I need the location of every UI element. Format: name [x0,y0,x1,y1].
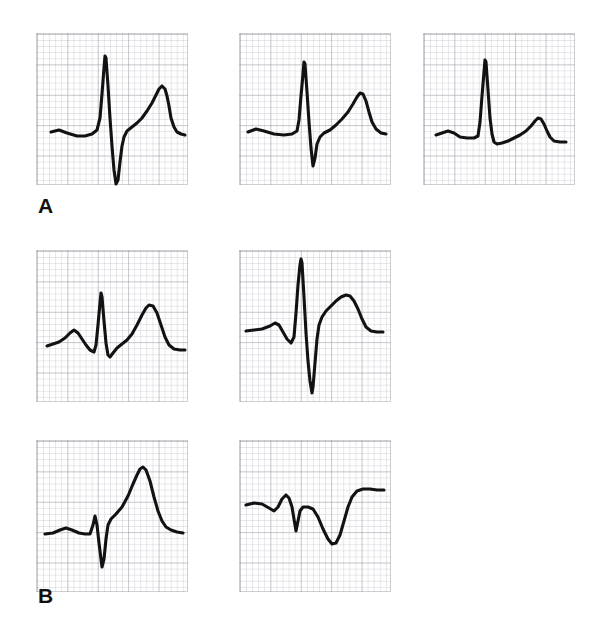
ecg-waveform-svg: Tall R wave with deep S wave, slightly r… [240,34,392,186]
ecg-trace-b4: Low amplitude QRS with small r and s wav… [246,489,384,544]
ecg-trace-a2: Tall R wave with deep S wave, slightly r… [248,62,386,166]
ecg-figure: Tall R wave with deep S wave and elevate… [0,0,605,624]
ecg-waveform-svg: Distinct P wave, narrow QRS with small S… [37,251,189,403]
ecg-panel-b2: Very tall R wave with a deep S wave exte… [239,250,391,402]
ecg-trace-a3: Tall narrow R wave on a flat baseline wi… [436,60,566,144]
ecg-waveform-svg: Tall R wave with deep S wave and elevate… [37,34,189,186]
ecg-trace-b3: Small r wave, deep narrow S wave, then a… [45,467,183,567]
ecg-panel-a1: Tall R wave with deep S wave and elevate… [36,33,188,185]
ecg-panel-b4: Low amplitude QRS with small r and s wav… [239,440,391,592]
ecg-panel-a3: Tall narrow R wave on a flat baseline wi… [423,33,575,185]
ecg-trace-a1: Tall R wave with deep S wave and elevate… [51,56,185,184]
ecg-panel-b1: Distinct P wave, narrow QRS with small S… [36,250,188,402]
group-label-a: A [38,195,53,216]
ecg-trace-b1: Distinct P wave, narrow QRS with small S… [47,293,185,357]
ecg-waveform-svg: Small r wave, deep narrow S wave, then a… [37,441,189,593]
ecg-waveform-svg: Low amplitude QRS with small r and s wav… [240,441,392,593]
ecg-waveform-svg: Tall narrow R wave on a flat baseline wi… [424,34,576,186]
group-label-b: B [38,585,53,606]
ecg-waveform-svg: Very tall R wave with a deep S wave exte… [240,251,392,403]
ecg-panel-a2: Tall R wave with deep S wave, slightly r… [239,33,391,185]
ecg-panel-b3: Small r wave, deep narrow S wave, then a… [36,440,188,592]
ecg-trace-b2: Very tall R wave with a deep S wave exte… [246,259,383,393]
